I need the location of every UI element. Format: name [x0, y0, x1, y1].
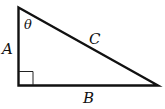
- label-side-b: B: [82, 89, 94, 107]
- label-hypotenuse-c: C: [89, 30, 101, 48]
- right-triangle-diagram: A B C θ: [0, 0, 165, 109]
- label-angle-theta: θ: [24, 17, 32, 32]
- label-side-a: A: [0, 40, 13, 58]
- right-angle-marker: [19, 72, 33, 86]
